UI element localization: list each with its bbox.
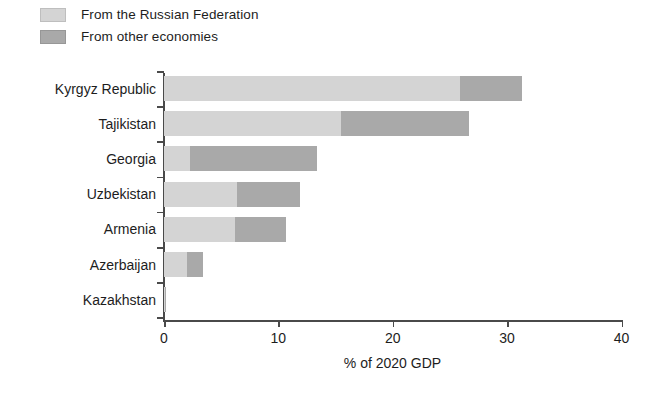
bar-kazakhstan [164, 287, 622, 312]
y-axis-tick-end [157, 317, 164, 319]
bar-segment-kyrgyz-republic-from-the-russian-federation [164, 76, 460, 101]
x-axis-tick-label-0: 0 [160, 331, 168, 345]
bar-kyrgyz-republic [164, 76, 622, 101]
x-axis-tick-20 [393, 320, 395, 327]
y-axis-tick-uzbekistan [157, 177, 164, 179]
y-axis-label-armenia: Armenia [4, 222, 156, 236]
bar-segment-tajikistan-from-the-russian-federation [164, 111, 341, 136]
x-axis-tick-40 [622, 320, 624, 327]
x-axis-tick-label-20: 20 [385, 331, 401, 345]
bar-segment-georgia-from-other-economies [190, 146, 317, 171]
bar-segment-kazakhstan-from-other-economies [165, 287, 166, 312]
y-axis-tick-georgia [157, 141, 164, 143]
bar-azerbaijan [164, 252, 622, 277]
bar-segment-armenia-from-other-economies [235, 217, 286, 242]
y-axis-label-kyrgyz-republic: Kyrgyz Republic [4, 82, 156, 96]
bar-segment-azerbaijan-from-the-russian-federation [164, 252, 187, 277]
bar-segment-georgia-from-the-russian-federation [164, 146, 190, 171]
x-axis-tick-label-10: 10 [271, 331, 287, 345]
bar-segment-armenia-from-the-russian-federation [164, 217, 235, 242]
bar-chart-plot-area: Kyrgyz RepublicTajikistanGeorgiaUzbekist… [0, 0, 658, 398]
y-axis-label-uzbekistan: Uzbekistan [4, 187, 156, 201]
y-axis-category-labels: Kyrgyz RepublicTajikistanGeorgiaUzbekist… [0, 0, 156, 398]
bar-segment-tajikistan-from-other-economies [341, 111, 469, 136]
x-axis-tick-label-40: 40 [614, 331, 630, 345]
y-axis-tick-kazakhstan [157, 282, 164, 284]
bar-armenia [164, 217, 622, 242]
bar-segment-azerbaijan-from-other-economies [187, 252, 203, 277]
x-axis-tick-10 [278, 320, 280, 327]
y-axis-label-kazakhstan: Kazakhstan [4, 293, 156, 307]
y-axis-tick-kyrgyz-republic [157, 71, 164, 73]
x-axis-tick-0 [164, 320, 166, 327]
bar-segment-kyrgyz-republic-from-other-economies [460, 76, 522, 101]
x-axis-tick-30 [507, 320, 509, 327]
x-axis-title: % of 2020 GDP [163, 356, 622, 370]
y-axis-label-azerbaijan: Azerbaijan [4, 258, 156, 272]
x-axis-tick-label-30: 30 [499, 331, 515, 345]
bar-uzbekistan [164, 182, 622, 207]
y-axis-tick-azerbaijan [157, 247, 164, 249]
bar-tajikistan [164, 111, 622, 136]
y-axis-label-tajikistan: Tajikistan [4, 117, 156, 131]
y-axis-tick-tajikistan [157, 106, 164, 108]
bar-segment-uzbekistan-from-the-russian-federation [164, 182, 237, 207]
bar-segment-uzbekistan-from-other-economies [237, 182, 300, 207]
y-axis-tick-armenia [157, 212, 164, 214]
y-axis-label-georgia: Georgia [4, 152, 156, 166]
bar-georgia [164, 146, 622, 171]
